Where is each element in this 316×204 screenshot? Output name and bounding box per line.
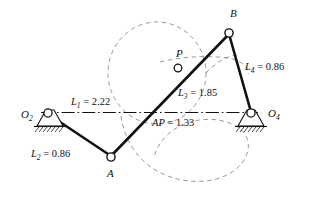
hatching-O4 [236,127,264,132]
coupler-inner-arc-dashed [206,55,239,73]
dashed-curves-group [108,22,249,181]
label-O2: O2 [21,108,33,123]
ground-pivot-O4 [235,109,267,132]
label-L1: L1 = 2.22 [70,96,110,110]
label-L2: L2 = 0.86 [30,148,70,162]
rocker-link-L4 [229,34,251,112]
label-P: P [175,47,183,59]
joint-circle-O4 [247,109,255,117]
joint-circle-P [174,64,182,72]
joint-circle-O2 [44,109,52,117]
hatching-O2 [35,127,63,132]
label-AP: AP = 1.33 [151,117,194,128]
label-L4: L4 = 0.86 [244,61,284,75]
joint-circle-A [107,153,115,161]
links-group [48,34,251,156]
label-L3: L3 = 1.85 [177,87,217,101]
label-A: A [106,167,114,179]
joint-circle-B [225,29,233,37]
label-B: B [230,7,237,19]
label-O4: O4 [268,107,280,122]
four-bar-linkage-figure: O2 O4 A B P L1 = 2.22 L2 = 0.86 L3 = 1.8… [0,0,316,204]
ground-pivot-O2 [34,109,66,132]
